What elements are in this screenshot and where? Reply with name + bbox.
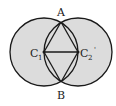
label-b: B <box>57 89 65 102</box>
label-c2-subscript: 2 <box>88 54 92 62</box>
label-c1-subscript: 1 <box>38 54 42 62</box>
intersecting-circles-diagram: A B C 1 C 2 ' <box>0 0 116 106</box>
label-a: A <box>56 6 66 19</box>
label-c2-mark: ' <box>94 46 96 54</box>
point-c1 <box>43 51 46 54</box>
